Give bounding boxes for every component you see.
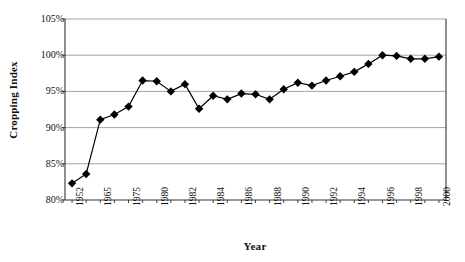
x-axis-tick-label: 1996	[387, 187, 397, 206]
x-axis-tick-label: 1988	[274, 187, 284, 206]
x-axis-tick-label: 1986	[245, 187, 255, 206]
x-axis-tick-label: 1965	[104, 187, 114, 206]
x-axis-title: Year	[65, 240, 445, 252]
x-axis-tick-label: 1990	[302, 187, 312, 206]
x-axis-tick-label: 2000	[443, 187, 453, 206]
x-axis-tick-label: 1975	[133, 187, 143, 206]
x-axis-tick-label: 1982	[189, 187, 199, 206]
x-axis-tick-label: 1952	[76, 187, 86, 206]
x-axis-tick-label: 1994	[358, 187, 368, 206]
x-axis-tick-label: 1984	[217, 187, 227, 206]
x-axis-tick-label: 1998	[415, 187, 425, 206]
x-axis-tick-labels: 1952196519751980198219841986198819901992…	[0, 0, 465, 262]
cropping-index-chart: Cropping Index 80%85%90%95%100%105% 1952…	[0, 0, 465, 262]
x-axis-tick-label: 1992	[330, 187, 340, 206]
x-axis-tick-label: 1980	[161, 187, 171, 206]
